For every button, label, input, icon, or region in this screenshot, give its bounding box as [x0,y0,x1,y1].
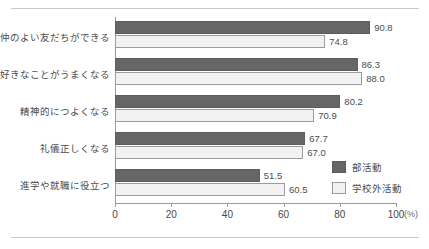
x-axis-tick [284,203,285,207]
x-axis-line [115,203,397,204]
legend-item-1[interactable]: 学校外活動 [332,179,402,196]
bar-value-label: 60.5 [289,183,308,196]
x-axis-tick-label: 80 [334,209,345,220]
bar[interactable] [115,132,305,145]
x-axis-tick [227,203,228,207]
bar-group: 90.874.8 [115,21,396,48]
bar-group: 80.270.9 [115,95,396,122]
bar[interactable] [115,21,370,34]
chart-legend: 部活動 学校外活動 [332,158,402,200]
x-axis-tick [340,203,341,207]
x-axis-tick [115,203,116,207]
bar-value-label: 67.0 [307,146,326,159]
bar[interactable] [115,183,285,196]
bar[interactable] [115,146,303,159]
category-label: 進学や就職に役立つ [0,178,110,192]
bar-value-label: 80.2 [344,95,363,108]
legend-swatch-icon-1 [332,182,346,194]
bar[interactable] [115,72,362,85]
category-label: 仲のよい友だちができる [0,30,110,44]
category-label: 礼儀正しくなる [0,141,110,155]
bar-value-label: 51.5 [264,169,283,182]
bar-group: 86.388.0 [115,58,396,85]
bar[interactable] [115,95,340,108]
chart-figure: 仲のよい友だちができる好きなことがうまくなる精神的につよくなる礼儀正しくなる進学… [0,0,429,249]
legend-label-1: 学校外活動 [352,181,402,195]
x-axis-tick-label: 0 [112,209,118,220]
bar[interactable] [115,109,314,122]
legend-label-0: 部活動 [352,160,382,174]
bar[interactable] [115,169,260,182]
x-axis-tick-label: 60 [278,209,289,220]
legend-swatch-icon-0 [332,161,346,173]
category-label: 精神的につよくなる [0,104,110,118]
x-axis-unit-label: (%) [404,209,418,219]
legend-item-0[interactable]: 部活動 [332,158,402,175]
top-divider-rule [11,8,419,9]
category-axis-labels: 仲のよい友だちができる好きなことがうまくなる精神的につよくなる礼儀正しくなる進学… [0,17,110,203]
bar-value-label: 86.3 [362,58,381,71]
x-axis-tick [171,203,172,207]
category-label: 好きなことがうまくなる [0,67,110,81]
bar-value-label: 67.7 [309,132,328,145]
bottom-divider-rule [11,237,419,238]
bar-value-label: 88.0 [366,72,385,85]
bar[interactable] [115,35,325,48]
bar-group: 67.767.0 [115,132,396,159]
bar-value-label: 74.8 [329,35,348,48]
bar-value-label: 90.8 [374,21,393,34]
x-axis-tick-label: 20 [166,209,177,220]
bar-value-label: 70.9 [318,109,337,122]
bar[interactable] [115,58,358,71]
x-axis-tick-label: 100 [388,209,405,220]
x-axis-tick-label: 40 [222,209,233,220]
x-axis-tick [396,203,397,207]
